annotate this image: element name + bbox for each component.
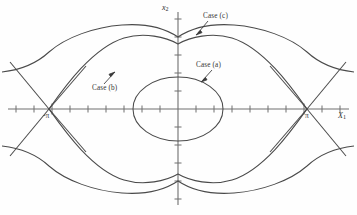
annotation-arrows bbox=[104, 21, 212, 84]
separatrix-right-branch-upper bbox=[307, 62, 346, 109]
separatrix-left-branch-upper bbox=[10, 62, 49, 109]
axes-group bbox=[8, 12, 349, 205]
case-a-label: Case (a) bbox=[196, 62, 221, 69]
case-b-arrow-head bbox=[109, 72, 115, 77]
separatrix-right-branch-outer-lower bbox=[270, 66, 307, 109]
x-tick-label-positive-pi: π bbox=[305, 112, 309, 120]
x-tick-label-negative-pi: -π bbox=[43, 112, 49, 120]
x-axis-label-subscript: 1 bbox=[343, 114, 346, 120]
case-b-label: Case (b) bbox=[92, 85, 117, 92]
separatrix-left-branch-outer-lower bbox=[49, 66, 86, 109]
separatrix-right-branch-outer-upper bbox=[270, 109, 307, 152]
case-c-label: Case (c) bbox=[203, 13, 228, 20]
y-axis-label: x2 bbox=[162, 4, 169, 12]
phase-portrait-canvas bbox=[0, 0, 357, 215]
separatrix-left-branch-outer-upper bbox=[49, 109, 86, 152]
y-axis-label-subscript: 2 bbox=[166, 6, 169, 12]
case-a-arrow-head bbox=[201, 77, 207, 82]
case-c-arrow-head bbox=[196, 30, 202, 35]
phase-portrait-figure: Case (c) Case (a) Case (b) x2 X1 -π π bbox=[0, 0, 357, 215]
x-axis-label: X1 bbox=[338, 112, 346, 120]
